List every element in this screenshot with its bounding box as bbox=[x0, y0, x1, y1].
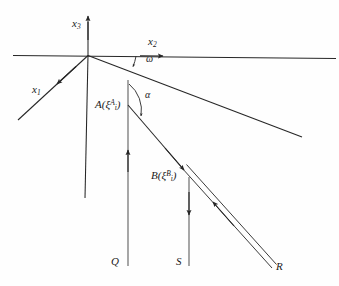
point-A-letter: A bbox=[95, 98, 102, 110]
x2-axis-label-sub: 2 bbox=[153, 40, 157, 49]
ray-A-to-B-arrow bbox=[165, 148, 184, 170]
x2-axis-label: x2 bbox=[148, 36, 157, 49]
ray-R-label: R bbox=[276, 261, 283, 272]
point-B-paren-close: ) bbox=[173, 169, 177, 181]
inclined-surface-line bbox=[88, 56, 302, 138]
alpha-symbol: α bbox=[145, 89, 150, 100]
x1-axis-label-sub: 1 bbox=[37, 88, 41, 97]
ray-R-line-lower bbox=[187, 165, 277, 265]
x3-axis-label-sub: 3 bbox=[77, 22, 81, 31]
figure-root: x3 x2 x1 ω α A(ξAi) B(ξBi) Q S R bbox=[0, 0, 339, 286]
ray-S-label: S bbox=[176, 256, 182, 267]
x3-axis-label: x3 bbox=[72, 18, 81, 31]
point-A-paren-close: ) bbox=[117, 98, 121, 110]
point-B-letter: B bbox=[151, 169, 158, 181]
x1-axis-arrow bbox=[57, 67, 76, 85]
x3-axis-line bbox=[85, 55, 88, 198]
x1-axis-label: x1 bbox=[32, 84, 41, 97]
ray-Q-label: Q bbox=[111, 256, 119, 267]
x1-axis-line bbox=[18, 56, 88, 121]
alpha-angle-label: α bbox=[145, 90, 150, 100]
x2-axis-line bbox=[13, 56, 336, 59]
omega-angle-label: ω bbox=[146, 54, 153, 64]
alpha-angle-arc bbox=[129, 84, 141, 116]
point-A-label: A(ξAi) bbox=[95, 99, 120, 112]
omega-symbol: ω bbox=[146, 53, 153, 64]
diagram-canvas bbox=[0, 0, 339, 286]
omega-angle-arc bbox=[133, 56, 136, 66]
point-B-label: B(ξBi) bbox=[151, 170, 176, 183]
